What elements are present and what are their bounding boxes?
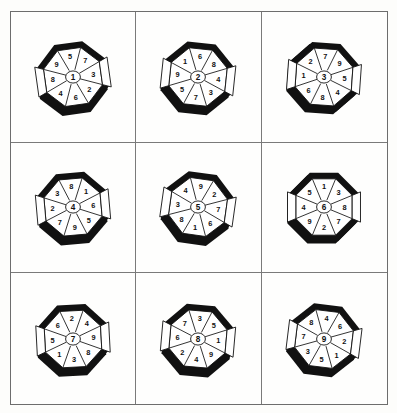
- octagon-diagram-3: 379548612: [281, 34, 367, 120]
- octagon-tab: [352, 64, 362, 94]
- segment-digit: 9: [92, 333, 96, 342]
- segment-digit: 7: [58, 219, 62, 228]
- figure-frame: 1573264892684375913795486124816597235927…: [10, 11, 388, 405]
- segment-digit: 9: [199, 183, 203, 192]
- octagon-diagram-4: 481659723: [30, 164, 116, 250]
- segment-digit: 1: [217, 336, 221, 345]
- octagon-tab: [100, 189, 111, 219]
- segment-digit: 7: [337, 217, 341, 226]
- segment-digit: 8: [212, 59, 216, 68]
- segment-digit: 2: [309, 57, 313, 66]
- segment-digit: 7: [217, 206, 221, 215]
- segment-digit: 5: [68, 52, 72, 61]
- octagon-diagram-6: 613872945: [281, 164, 367, 250]
- grid-cell-4: 481659723: [11, 143, 136, 274]
- segment-digit: 8: [310, 318, 314, 327]
- grid-cell-9: 946215378: [262, 273, 387, 404]
- segment-digit: 5: [51, 335, 55, 344]
- segment-digit: 9: [308, 217, 312, 226]
- segment-digit: 5: [180, 85, 184, 94]
- segment-digit: 6: [338, 322, 342, 331]
- center-digit: 1: [71, 73, 76, 82]
- octagon-tab-opposite: [287, 59, 297, 89]
- segment-digit: 7: [302, 332, 306, 341]
- segment-digit: 8: [51, 75, 55, 84]
- segment-digit: 6: [92, 201, 96, 210]
- segment-digit: 3: [198, 314, 202, 323]
- grid-cell-2: 268437591: [136, 12, 261, 143]
- center-digit: 2: [196, 73, 201, 82]
- segment-digit: 2: [70, 314, 74, 323]
- segment-digit: 7: [183, 318, 187, 327]
- segment-digit: 3: [209, 88, 213, 97]
- segment-digit: 1: [184, 56, 188, 65]
- segment-digit: 8: [180, 215, 184, 224]
- octagon-tab: [226, 327, 237, 357]
- segment-digit: 6: [307, 86, 311, 95]
- segment-digit: 2: [343, 337, 347, 346]
- grid-cell-3: 379548612: [262, 12, 387, 143]
- octagon-tab-opposite: [35, 196, 46, 226]
- segment-digit: 6: [199, 52, 203, 61]
- segment-digit: 7: [324, 52, 328, 61]
- segment-digit: 8: [343, 203, 347, 212]
- segment-digit: 9: [176, 70, 180, 79]
- center-digit: 5: [196, 203, 201, 212]
- segment-digit: 3: [306, 347, 310, 356]
- segment-digit: 1: [322, 182, 326, 191]
- segment-digit: 1: [84, 187, 88, 196]
- segment-digit: 2: [87, 85, 91, 94]
- segment-digit: 3: [55, 190, 59, 199]
- segment-digit: 5: [308, 188, 312, 197]
- segment-digit: 1: [57, 349, 61, 358]
- segment-digit: 5: [87, 216, 91, 225]
- octagon-tab: [101, 322, 111, 352]
- segment-digit: 1: [194, 223, 198, 232]
- segment-digit: 8: [86, 348, 90, 357]
- diagram-grid: 1573264892684375913795486124816597235927…: [11, 12, 387, 404]
- segment-digit: 9: [338, 59, 342, 68]
- grid-cell-8: 835194267: [136, 273, 261, 404]
- center-digit: 7: [71, 334, 76, 343]
- segment-digit: 6: [209, 219, 213, 228]
- grid-cell-5: 592761834: [136, 143, 261, 274]
- octagon-tab-opposite: [36, 325, 46, 355]
- grid-cell-1: 157326489: [11, 12, 136, 143]
- segment-digit: 1: [335, 350, 339, 359]
- octagon-diagram-5: 592761834: [155, 164, 241, 250]
- segment-digit: 3: [72, 355, 76, 364]
- center-digit: 6: [322, 203, 327, 212]
- octagon-tab-opposite: [161, 320, 172, 350]
- grid-cell-7: 724983156: [11, 273, 136, 404]
- segment-digit: 9: [73, 223, 77, 232]
- segment-digit: 3: [337, 188, 341, 197]
- center-digit: 8: [196, 334, 201, 343]
- segment-digit: 5: [343, 74, 347, 83]
- segment-digit: 2: [322, 223, 326, 232]
- segment-digit: 2: [51, 205, 55, 214]
- segment-digit: 8: [69, 183, 73, 192]
- grid-cell-6: 613872945: [262, 143, 387, 274]
- segment-digit: 2: [213, 191, 217, 200]
- segment-digit: 2: [181, 347, 185, 356]
- segment-digit: 3: [176, 200, 180, 209]
- segment-digit: 6: [56, 320, 60, 329]
- octagon-diagram-8: 835194267: [155, 296, 241, 382]
- segment-digit: 8: [321, 93, 325, 102]
- segment-digit: 9: [210, 350, 214, 359]
- segment-digit: 5: [320, 355, 324, 364]
- segment-digit: 7: [194, 93, 198, 102]
- center-digit: 9: [322, 334, 327, 343]
- segment-digit: 5: [212, 321, 216, 330]
- segment-digit: 6: [74, 93, 78, 102]
- octagon-diagram-9: 946215378: [281, 296, 367, 382]
- segment-digit: 3: [91, 69, 95, 78]
- segment-digit: 9: [55, 60, 59, 69]
- octagon-tab: [353, 192, 361, 222]
- octagon-diagram-1: 157326489: [30, 34, 116, 120]
- center-digit: 4: [71, 203, 76, 212]
- segment-digit: 7: [83, 56, 87, 65]
- center-digit: 3: [322, 73, 327, 82]
- segment-digit: 1: [302, 71, 306, 80]
- segment-digit: 6: [176, 332, 180, 341]
